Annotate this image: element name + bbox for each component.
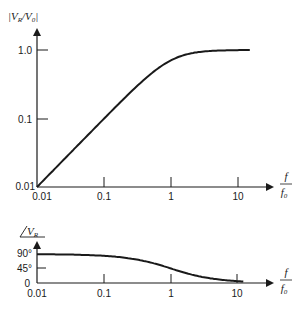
y-tick-label: 90° [17, 248, 32, 259]
svg-text:f0: f0 [281, 186, 288, 200]
bode-plot: |VR/V0| 1.0 0.1 0.01 0.01 0.1 1 10 f f0 [0, 0, 299, 312]
x-tick-label: 1 [168, 288, 174, 299]
magnitude-curve [37, 50, 250, 187]
x-tick-label: 0.1 [97, 191, 111, 202]
svg-text:f: f [284, 170, 289, 182]
y-tick-label: 45° [17, 263, 32, 274]
svg-text:VR: VR [27, 225, 39, 239]
phase-curve [37, 254, 243, 281]
y-tick-label: 1.0 [18, 45, 32, 56]
y-tick-label: 0.1 [18, 114, 32, 125]
svg-text:f: f [284, 266, 289, 278]
x-tick-label: 10 [232, 191, 244, 202]
x-tick-label: 10 [231, 288, 243, 299]
magnitude-x-label: f f0 [280, 170, 292, 200]
x-tick-label: 0.01 [32, 191, 52, 202]
x-tick-label: 0.01 [27, 288, 47, 299]
phase-x-label: f f0 [280, 266, 292, 296]
x-tick-label: 0.1 [97, 288, 111, 299]
magnitude-chart: |VR/V0| 1.0 0.1 0.01 0.01 0.1 1 10 f f0 [8, 10, 292, 202]
x-tick-label: 1 [168, 191, 174, 202]
phase-chart: VR 90° 45° 0 0.01 0.1 1 10 f f0 [17, 225, 292, 299]
magnitude-y-label: |VR/V0| [8, 10, 38, 24]
phase-y-label: VR [20, 225, 45, 239]
svg-text:f0: f0 [281, 282, 288, 296]
